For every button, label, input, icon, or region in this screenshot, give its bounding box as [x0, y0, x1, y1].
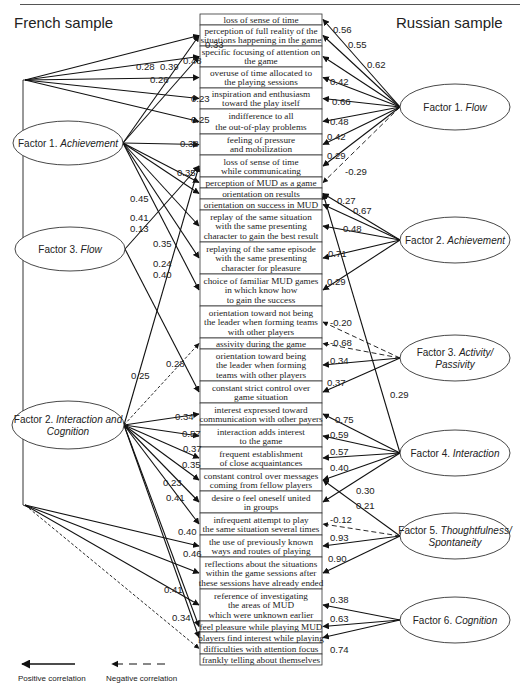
- coefficient-label: 0.63: [330, 613, 349, 624]
- svg-text:Factor 3. Activity/: Factor 3. Activity/: [417, 347, 495, 358]
- item-box: indifference to allthe out-of-play probl…: [200, 109, 322, 134]
- factor-french-2: Factor 3. Flow: [15, 227, 125, 271]
- item-box: assivity during the game: [200, 338, 322, 349]
- coefficient-label: 0.71: [328, 248, 347, 259]
- coefficient-label: 0.25: [191, 114, 210, 125]
- factor-russian-2: Factor 2. Achievement: [400, 217, 510, 263]
- coefficient-label: -0.20: [330, 317, 352, 328]
- coefficient-label: 0.35: [153, 238, 172, 249]
- positive-link: [124, 425, 199, 524]
- item-label: coming from fellow players: [210, 480, 313, 490]
- item-box: the use of previously knownways and rout…: [200, 535, 322, 557]
- svg-text:Factor 2. Interaction and: Factor 2. Interaction and: [14, 414, 123, 425]
- item-box: loss of sense of time: [200, 14, 322, 25]
- positive-link: [25, 80, 199, 99]
- coefficient-label: 0.29: [390, 389, 409, 400]
- coefficient-label: 0.28: [166, 358, 185, 369]
- item-box: players find interest while playing: [198, 632, 324, 643]
- coefficient-label: 0.75: [335, 414, 354, 425]
- coefficient-label: 0.93: [330, 532, 349, 543]
- item-label: feel pleasure while playing MUD: [200, 622, 323, 632]
- svg-text:Factor 1. Achievement: Factor 1. Achievement: [18, 138, 119, 149]
- positive-link: [124, 166, 199, 425]
- coefficient-label: 0.55: [348, 39, 367, 50]
- item-box: desire o feel oneself unitedin groups: [200, 491, 322, 513]
- coefficient-label: 0.56: [333, 24, 352, 35]
- coefficient-label: 0.66: [332, 96, 351, 107]
- item-box: orientation on success in MUD: [200, 199, 322, 210]
- item-box: interest expressed towardcommunication w…: [199, 403, 323, 425]
- coefficient-label: 0.35: [182, 459, 201, 470]
- factor-russian-3: Factor 3. Activity/Passivity: [400, 335, 510, 381]
- factor-french-1: Factor 1. Achievement: [13, 121, 123, 165]
- item-box: orientation on results: [200, 188, 322, 199]
- legend-positive-label: Positive correlation: [18, 674, 86, 683]
- coefficient-label: 0.42: [330, 76, 349, 87]
- item-label: which were unknown earlier: [209, 610, 314, 620]
- coefficient-label: 0.67: [353, 205, 372, 216]
- item-box: replaying of the same episodewith the sa…: [200, 242, 322, 274]
- item-label: character for pleasure: [221, 263, 301, 273]
- item-box: feeling of pressureand mobilization: [200, 134, 322, 155]
- item-box: loss of sense of timewhile communicating: [200, 155, 322, 177]
- svg-text:Factor 6. Cognition: Factor 6. Cognition: [413, 615, 498, 626]
- coefficient-label: 0.38: [180, 138, 199, 149]
- coefficient-label: 0.46: [183, 548, 202, 559]
- factor-russian-5: Factor 5. Thoughtfulness/Spontaneity: [398, 513, 513, 559]
- coefficient-label: 0.41: [164, 584, 183, 595]
- item-box: frequent establishmentof close acquainta…: [200, 447, 322, 469]
- item-label: indifference to all: [228, 111, 294, 121]
- coefficient-label: 0.48: [330, 116, 349, 127]
- coefficient-label: 0.37: [183, 443, 202, 454]
- positive-link: [25, 505, 199, 573]
- item-label: game situation: [234, 392, 288, 402]
- item-box: orientation toward beingthe leader when …: [200, 349, 322, 381]
- coefficient-label: 0.39: [160, 61, 179, 72]
- item-label: orientation on results: [222, 189, 300, 199]
- coefficient-label: 0.21: [356, 500, 375, 511]
- item-box: reference of investigatingthe areas of M…: [200, 589, 322, 621]
- item-label: with other players: [228, 327, 295, 337]
- coefficient-label: 0.29: [327, 150, 346, 161]
- item-label: of close acquaintances: [220, 458, 303, 468]
- positive-link: [25, 505, 199, 546]
- positive-link: [125, 166, 199, 249]
- coefficient-label: 0.37: [327, 377, 346, 388]
- item-label: the playing sessions: [224, 77, 298, 87]
- coefficient-label: 0.25: [131, 370, 150, 381]
- factor-french-3: Factor 2. Interaction andCognition: [12, 401, 124, 449]
- coefficient-label: 0.41: [130, 212, 149, 223]
- negative-link: [25, 505, 199, 649]
- coefficient-label: -0.29: [345, 166, 367, 177]
- legend: Positive correlation Negative correlatio…: [18, 664, 177, 683]
- coefficient-label: 0.33: [205, 39, 224, 50]
- item-box: feel pleasure while playing MUD: [200, 621, 323, 632]
- items-column: loss of sense of timeperception of full …: [198, 14, 324, 665]
- item-label: the out-of-play problems: [215, 122, 307, 132]
- item-box: infrequent attempt to playthe same situa…: [200, 513, 322, 535]
- coefficient-label: 0.24: [153, 258, 172, 269]
- item-label: assivity during the game: [216, 339, 306, 349]
- coefficient-label: 0.48: [183, 55, 202, 66]
- svg-text:Cognition: Cognition: [47, 426, 90, 437]
- item-label: while communicating: [221, 166, 301, 176]
- coefficient-label: 0.40: [153, 269, 172, 280]
- coefficient-label: 0.40: [178, 526, 197, 537]
- coefficient-label: 0.13: [130, 223, 149, 234]
- coefficient-label: 0.57: [330, 446, 349, 457]
- coefficient-label: 0.62: [367, 59, 386, 70]
- svg-text:Factor 4. Interaction: Factor 4. Interaction: [411, 448, 500, 459]
- item-label: to the game: [240, 436, 283, 446]
- item-label: frankly telling about themselves: [202, 655, 321, 665]
- item-label: teams with other players: [216, 370, 306, 380]
- svg-text:Passivity: Passivity: [435, 359, 475, 370]
- coefficient-label: 0.48: [343, 223, 362, 234]
- coefficient-label: 0.30: [356, 485, 375, 496]
- svg-text:Factor 3. Flow: Factor 3. Flow: [38, 244, 102, 255]
- legend-negative-label: Negative correlation: [106, 674, 177, 683]
- item-label: the game: [244, 56, 277, 66]
- item-label: and mobilization: [230, 144, 292, 154]
- item-label: loss of sense of time: [223, 15, 298, 25]
- svg-text:Factor 2. Achievement: Factor 2. Achievement: [405, 235, 506, 246]
- coefficient-label: 0.40: [330, 462, 349, 473]
